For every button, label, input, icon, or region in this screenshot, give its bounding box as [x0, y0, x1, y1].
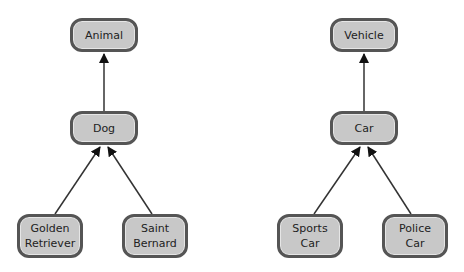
- node-label: Saint Bernard: [133, 221, 177, 251]
- edge-police-car: [368, 147, 411, 214]
- node-saint-bernard: Saint Bernard: [122, 214, 188, 258]
- edge-saint-dog: [108, 147, 152, 214]
- node-label: Vehicle: [344, 28, 383, 43]
- node-police-car: Police Car: [382, 214, 448, 258]
- node-label: Car: [355, 121, 374, 136]
- node-label: Golden Retriever: [25, 221, 75, 251]
- node-label: Police Car: [399, 221, 431, 251]
- node-dog: Dog: [70, 111, 138, 145]
- node-vehicle: Vehicle: [330, 18, 398, 52]
- node-car: Car: [330, 111, 398, 145]
- edge-sports-car: [314, 147, 360, 214]
- node-label: Sports Car: [292, 221, 327, 251]
- node-label: Dog: [93, 121, 115, 136]
- edge-golden-dog: [55, 147, 100, 214]
- node-label: Animal: [85, 28, 123, 43]
- node-animal: Animal: [70, 18, 138, 52]
- node-golden-retriever: Golden Retriever: [17, 214, 83, 258]
- node-sports-car: Sports Car: [277, 214, 343, 258]
